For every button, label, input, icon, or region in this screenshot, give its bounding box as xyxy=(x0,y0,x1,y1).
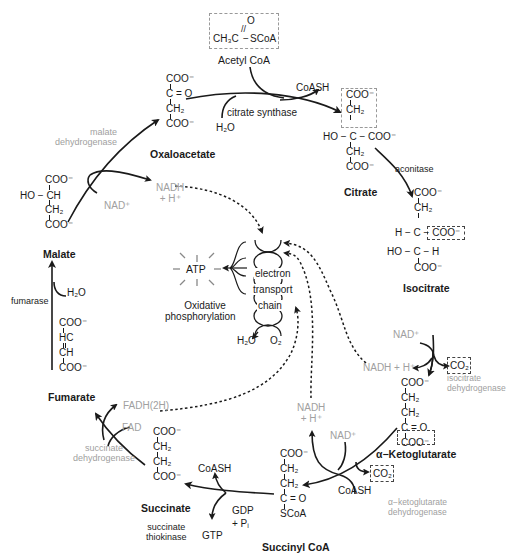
citrate-line: COO⁻ xyxy=(346,90,374,100)
etc-h2o: H₂O xyxy=(237,335,256,346)
oxaloacetate-line: C = O xyxy=(166,89,194,99)
akgdh-co2: CO₂ xyxy=(373,468,392,479)
thiokinase-enzyme-line2: thiokinase xyxy=(146,532,187,542)
akgdh-enzyme-line1: α−ketoglutarate xyxy=(388,497,447,507)
akgdh-nadh-line2: + H⁺ xyxy=(297,413,325,424)
oxphos-line2: phosphorylation xyxy=(165,311,235,322)
akg-label: α−Ketoglutarate xyxy=(376,448,456,460)
fumarate-structure: COO⁻ HC CH COO⁻ xyxy=(59,318,87,373)
citrate-center: HO − C − COO⁻ xyxy=(323,131,396,142)
malate-line: COO⁻ xyxy=(45,220,73,230)
akgdh-nadh: NADH + H⁺ xyxy=(297,402,325,424)
oxaloacetate-label: Oxaloacetate xyxy=(150,148,215,160)
sdh-fadh: FADH(2H) xyxy=(123,400,169,411)
succinyl-coa-line: CH₂ xyxy=(280,479,308,489)
fumarase-h2o: H₂O xyxy=(67,287,86,298)
succinyl-coa-line: C = O xyxy=(280,494,308,504)
thiokinase-gtp: GTP xyxy=(202,530,223,541)
succinyl-coa-label: Succinyl CoA xyxy=(262,541,330,553)
fumarate-line: COO⁻ xyxy=(59,318,87,328)
akg-line: CH₂ xyxy=(401,393,429,403)
citrate-label: Citrate xyxy=(344,186,377,198)
idh-enzyme-line2: dehydrogenase xyxy=(447,383,506,393)
acetyl-coa-label: Acetyl CoA xyxy=(218,55,270,66)
etc-label-3: chain xyxy=(257,300,283,311)
thiokinase-pi-line: + Pᵢ xyxy=(232,518,254,529)
succinate-thiokinase-label: succinate thiokinase xyxy=(146,522,187,542)
etc-o2: O₂ xyxy=(270,335,282,346)
etc-label-2: transport xyxy=(252,284,293,295)
citrate-synthase-label: citrate synthase xyxy=(227,107,297,118)
akgdh-coash: CoASH xyxy=(338,485,371,496)
isocitrate-dehydrogenase-label: isocitrate dehydrogenase xyxy=(447,373,506,393)
mdh-enzyme-line2: dehydrogenase xyxy=(55,137,117,147)
mdh-nadh: NADH + H⁺ xyxy=(156,182,184,204)
fumarate-label: Fumarate xyxy=(48,391,95,403)
succinyl-coa-line: COO⁻ xyxy=(280,449,308,459)
succinyl-coa-line: SCoA xyxy=(280,509,308,519)
fumarate-line: HC xyxy=(59,333,87,343)
sdh-enzyme-line1: succinate xyxy=(73,443,135,453)
etc-label-1: electron xyxy=(254,268,292,279)
isocitrate-line: COO⁻ xyxy=(414,263,442,273)
fumarate-line: COO⁻ xyxy=(59,363,87,373)
malate-dehydrogenase-label: malate dehydrogenase xyxy=(55,127,117,147)
citrate-synthase-h2o: H₂O xyxy=(216,122,235,133)
malate-line: CH₂ xyxy=(45,205,73,215)
acetyl-coa-formula-right: SCoA xyxy=(250,33,276,44)
succinate-label: Succinate xyxy=(141,502,191,514)
akg-line: COO⁻ xyxy=(401,378,429,388)
akg-coo-box xyxy=(397,430,435,445)
isocitrate-bottom: COO⁻ xyxy=(414,258,442,273)
malate-label: Malate xyxy=(43,248,76,260)
akgdh-nadh-line1: NADH xyxy=(297,402,325,413)
mdh-nadh-line2: + H⁺ xyxy=(156,193,184,204)
thiokinase-coash: CoASH xyxy=(198,463,231,474)
aconitase-label: aconitase xyxy=(395,164,434,175)
isocitrate-c2: H − C − COO⁻ xyxy=(395,227,460,238)
thiokinase-gdp: GDP + Pᵢ xyxy=(232,505,254,529)
malate-top: COO⁻ xyxy=(45,175,73,190)
sdh-fad: FAD xyxy=(122,422,141,433)
isocitrate-top: COO⁻ CH₂ xyxy=(414,188,442,218)
akgdh-nad: NAD⁺ xyxy=(330,430,356,441)
acetyl-coa-oxygen: O xyxy=(247,15,255,26)
atp-label: ATP xyxy=(186,264,206,275)
thiokinase-gdp-line: GDP xyxy=(232,505,254,516)
thiokinase-enzyme-line1: succinate xyxy=(146,522,187,532)
acetyl-coa-formula-left: CH₃C xyxy=(213,33,239,44)
oxaloacetate-line: COO⁻ xyxy=(166,74,194,84)
akgdh-enzyme-line2: dehydrogenase xyxy=(388,507,447,517)
citrate-line: CH₂ xyxy=(346,105,374,115)
oxaloacetate-structure: COO⁻ C = O CH₂ COO⁻ xyxy=(166,74,194,129)
acetyl-coa-bond: − xyxy=(243,33,249,44)
isocitrate-line: CH₂ xyxy=(414,203,442,213)
citrate-line: CH₂ xyxy=(346,147,374,157)
akg-line: CH₂ xyxy=(401,408,429,418)
isocitrate-label: Isocitrate xyxy=(403,282,450,294)
isocitrate-c3: HO − C − H xyxy=(387,246,439,257)
idh-nadh: NADH + H⁺ xyxy=(363,362,415,373)
idh-co2: CO₂ xyxy=(450,360,469,371)
fumarase-label: fumarase xyxy=(11,296,49,307)
mdh-enzyme-line1: malate xyxy=(55,127,117,137)
isocitrate-line: COO⁻ xyxy=(414,188,442,198)
idh-enzyme-line1: isocitrate xyxy=(447,373,506,383)
malate-bottom: CH₂ COO⁻ xyxy=(45,200,73,230)
citrate-synthase-coash: CoASH xyxy=(296,82,329,93)
idh-nad: NAD⁺ xyxy=(393,329,419,340)
mdh-nad: NAD⁺ xyxy=(104,200,130,211)
oxaloacetate-line: COO⁻ xyxy=(166,119,194,129)
succinate-line: COO⁻ xyxy=(153,472,181,482)
oxphos-line1: Oxidative xyxy=(175,300,235,311)
malate-line: COO⁻ xyxy=(45,175,73,185)
succinyl-coa-line: CH₂ xyxy=(280,464,308,474)
oxaloacetate-line: CH₂ xyxy=(166,104,194,114)
succinate-dehydrogenase-label: succinate dehydrogenase xyxy=(73,443,135,463)
mdh-nadh-line1: NADH xyxy=(156,182,184,193)
oxidative-phosphorylation-label: Oxidative phosphorylation xyxy=(175,300,235,322)
succinate-line: CH₂ xyxy=(153,457,181,467)
succinate-line: COO⁻ xyxy=(153,427,181,437)
sdh-enzyme-line2: dehydrogenase xyxy=(73,453,135,463)
citrate-top: COO⁻ CH₂ xyxy=(346,90,374,120)
